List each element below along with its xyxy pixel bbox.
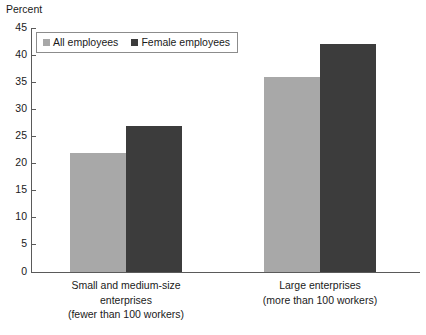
x-axis-category-label: Large enterprises(more than 100 workers) xyxy=(220,278,420,307)
bar xyxy=(264,77,320,272)
x-axis-category-label-line: enterprises xyxy=(26,293,226,308)
legend-swatch-icon-female-employees xyxy=(131,39,138,46)
y-axis-tick-label: 30 xyxy=(15,102,27,115)
bar-chart: Percent 454035302520151050 All employees… xyxy=(0,0,426,335)
legend-label-all-employees: All employees xyxy=(53,36,118,49)
x-axis-line xyxy=(31,272,420,273)
legend-item-all-employees[interactable]: All employees xyxy=(43,36,118,49)
bars-layer xyxy=(31,28,420,272)
legend-label-female-employees: Female employees xyxy=(141,36,230,49)
y-axis-tick-label: 40 xyxy=(15,48,27,61)
x-axis-category-label-line: (fewer than 100 workers) xyxy=(26,307,226,322)
y-axis-tick-label: 25 xyxy=(15,129,27,142)
legend-swatch-icon-all-employees xyxy=(43,39,50,46)
y-axis-tick-label: 15 xyxy=(15,183,27,196)
bar xyxy=(126,126,182,272)
y-axis-tick-label: 5 xyxy=(21,237,27,250)
y-axis-title: Percent xyxy=(6,3,42,15)
x-axis-category-label-line: Large enterprises xyxy=(220,278,420,293)
y-axis-tick-label: 45 xyxy=(15,21,27,34)
bar xyxy=(320,44,376,272)
y-axis-tick-label: 35 xyxy=(15,75,27,88)
x-axis-category-label-line: Small and medium-size xyxy=(26,278,226,293)
chart-legend: All employees Female employees xyxy=(36,32,238,53)
legend-item-female-employees[interactable]: Female employees xyxy=(131,36,230,49)
bar xyxy=(70,153,126,272)
x-axis-category-label-line: (more than 100 workers) xyxy=(220,293,420,308)
x-axis-category-label: Small and medium-sizeenterprises(fewer t… xyxy=(26,278,226,322)
y-axis-tick-label: 0 xyxy=(21,265,27,278)
y-axis-tick-label: 10 xyxy=(15,210,27,223)
y-axis-tick-label: 20 xyxy=(15,156,27,169)
